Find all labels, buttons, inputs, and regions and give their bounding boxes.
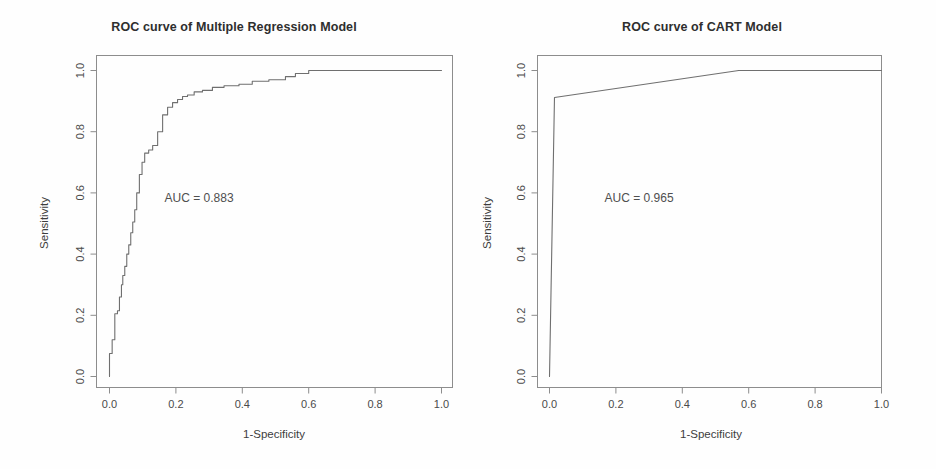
y-ticks xyxy=(532,71,538,377)
y-tick-label: 1.0 xyxy=(74,63,86,78)
y-tick-label: 0.4 xyxy=(515,246,527,261)
axes-right: 0.0 0.2 0.4 0.6 0.8 1.0 0.0 xyxy=(481,56,889,441)
roc-figure: ROC curve of Multiple Regression Model 0… xyxy=(0,0,936,469)
y-tick-label: 0.8 xyxy=(515,124,527,139)
y-tick-label: 0.0 xyxy=(515,369,527,384)
panel-multiple-regression: ROC curve of Multiple Regression Model 0… xyxy=(0,0,468,469)
x-ticks xyxy=(110,388,442,394)
x-tick-label: 0.6 xyxy=(741,398,756,410)
y-tick-label: 0.2 xyxy=(515,308,527,323)
plot-cart: 0.0 0.2 0.4 0.6 0.8 1.0 0.0 xyxy=(468,0,936,469)
x-tick-label: 0.4 xyxy=(235,398,250,410)
y-tick-labels: 0.0 0.2 0.4 0.6 0.8 1.0 xyxy=(515,63,527,384)
roc-curve-cart xyxy=(550,71,882,377)
x-tick-labels: 0.0 0.2 0.4 0.6 0.8 1.0 xyxy=(102,398,449,410)
y-tick-labels: 0.0 0.2 0.4 0.6 0.8 1.0 xyxy=(74,63,86,384)
y-axis-title: Sensitivity xyxy=(38,197,50,249)
panel-cart: ROC curve of CART Model 0.0 0.2 0.4 xyxy=(468,0,936,469)
y-tick-label: 0.2 xyxy=(74,308,86,323)
y-tick-label: 0.6 xyxy=(515,185,527,200)
plot-frame xyxy=(538,56,882,388)
x-axis-title: 1-Specificity xyxy=(680,428,742,440)
plot-frame xyxy=(97,56,453,388)
x-tick-label: 0.6 xyxy=(301,398,316,410)
x-tick-label: 0.8 xyxy=(807,398,822,410)
roc-curve-multiple-regression xyxy=(110,71,442,377)
x-tick-label: 0.4 xyxy=(675,398,690,410)
y-ticks xyxy=(91,71,97,377)
x-tick-label: 0.2 xyxy=(168,398,183,410)
x-tick-label: 1.0 xyxy=(434,398,449,410)
x-tick-label: 0.8 xyxy=(367,398,382,410)
x-tick-label: 0.2 xyxy=(608,398,623,410)
plot-multiple-regression: 0.0 0.2 0.4 0.6 0.8 1.0 0.0 xyxy=(0,0,468,469)
auc-annotation-multiple-regression: AUC = 0.883 xyxy=(165,191,234,205)
x-tick-labels: 0.0 0.2 0.4 0.6 0.8 1.0 xyxy=(542,398,889,410)
y-axis-title: Sensitivity xyxy=(481,197,493,249)
y-tick-label: 0.0 xyxy=(74,369,86,384)
x-ticks xyxy=(550,388,882,394)
y-tick-label: 1.0 xyxy=(515,63,527,78)
x-tick-label: 0.0 xyxy=(542,398,557,410)
y-tick-label: 0.8 xyxy=(74,124,86,139)
y-tick-label: 0.4 xyxy=(74,246,86,261)
x-tick-label: 0.0 xyxy=(102,398,117,410)
x-axis-title: 1-Specificity xyxy=(243,428,305,440)
axes-left: 0.0 0.2 0.4 0.6 0.8 1.0 0.0 xyxy=(38,56,453,441)
x-tick-label: 1.0 xyxy=(874,398,889,410)
auc-annotation-cart: AUC = 0.965 xyxy=(605,191,674,205)
y-tick-label: 0.6 xyxy=(74,185,86,200)
